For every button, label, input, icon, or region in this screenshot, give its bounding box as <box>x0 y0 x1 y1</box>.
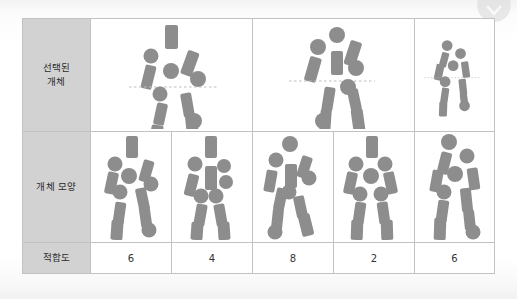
figure-container-individual-5 <box>415 132 494 242</box>
rowhead-selected-individuals: 선택된 개체 <box>23 19 91 132</box>
cell-individual-5[interactable] <box>415 132 495 243</box>
rowhead-individual-shape: 개체 모양 <box>23 132 91 243</box>
stick-figure-individual-3 <box>255 134 331 240</box>
stick-figure-individual-5 <box>417 134 493 240</box>
fitness-value-1: 6 <box>91 243 172 274</box>
figure-container-parent-1 <box>91 19 252 131</box>
fitness-value-4: 2 <box>334 243 415 274</box>
cell-individual-4[interactable] <box>334 132 415 243</box>
figure-container-individual-4 <box>334 132 414 242</box>
fitness-value-3: 8 <box>253 243 334 274</box>
figure-container-individual-3 <box>253 132 333 242</box>
fitness-value-2: 4 <box>172 243 253 274</box>
genetic-algorithm-table: 선택된 개체 <box>22 18 495 274</box>
row-selected-individuals: 선택된 개체 <box>23 19 495 132</box>
figure-container-individual-1 <box>91 132 171 242</box>
cell-individual-1[interactable] <box>91 132 172 243</box>
rowhead-fitness: 적합도 <box>23 243 91 274</box>
figure-container-parent-2 <box>253 19 414 131</box>
cell-parent-1[interactable] <box>91 19 253 132</box>
figure-container-parent-3 <box>415 19 494 131</box>
stick-figure-parent-1 <box>113 21 231 129</box>
stick-figure-individual-2 <box>174 134 250 240</box>
stick-figure-parent-2 <box>275 21 393 129</box>
cell-individual-2[interactable] <box>172 132 253 243</box>
rowhead-selected-line1: 선택된 <box>23 61 90 75</box>
stick-figure-individual-1 <box>93 134 169 240</box>
row-individual-shapes: 개체 모양 <box>23 132 495 243</box>
cell-individual-3[interactable] <box>253 132 334 243</box>
rowhead-selected-line2: 개체 <box>23 75 90 89</box>
cell-parent-2[interactable] <box>253 19 415 132</box>
cell-parent-3[interactable] <box>415 19 495 132</box>
row-fitness: 적합도 6 4 8 2 6 <box>23 243 495 274</box>
figure-container-individual-2 <box>172 132 252 242</box>
stick-figure-individual-4 <box>336 134 412 240</box>
page-canvas: 선택된 개체 <box>0 0 517 299</box>
fitness-value-5: 6 <box>415 243 495 274</box>
stick-figure-parent-3 <box>415 21 494 129</box>
ga-table-wrapper: 선택된 개체 <box>22 18 494 283</box>
